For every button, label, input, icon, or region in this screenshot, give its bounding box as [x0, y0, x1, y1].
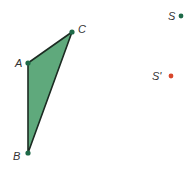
label-c: C: [78, 23, 86, 35]
label-b: B: [13, 150, 20, 162]
point-s-dot: [179, 14, 184, 19]
label-s: S: [168, 10, 176, 22]
vertex-c-dot: [69, 29, 74, 34]
vertex-b-dot: [25, 150, 30, 155]
point-s-prime-dot: [169, 74, 174, 79]
vertex-a-dot: [25, 60, 30, 65]
label-a: A: [14, 57, 22, 69]
triangle-abc: [28, 32, 72, 153]
label-s-prime: S': [152, 70, 162, 82]
diagram-canvas: A B C S S': [0, 0, 194, 172]
